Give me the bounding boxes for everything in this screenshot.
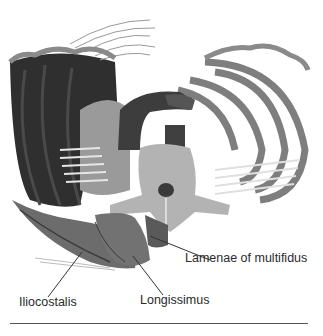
leader-iliocostalis [48,252,82,297]
anatomy-illustration [0,0,323,336]
figure-divider [10,323,308,324]
label-iliocostalis: Iliocostalis [19,295,77,309]
label-lamenae-of-multifidus: Lamenae of multifidus [185,251,307,265]
leader-longissimus [133,256,163,295]
right-ribs [178,62,305,200]
mediastinum [118,91,195,150]
label-longissimus: Longissimus [140,293,209,307]
